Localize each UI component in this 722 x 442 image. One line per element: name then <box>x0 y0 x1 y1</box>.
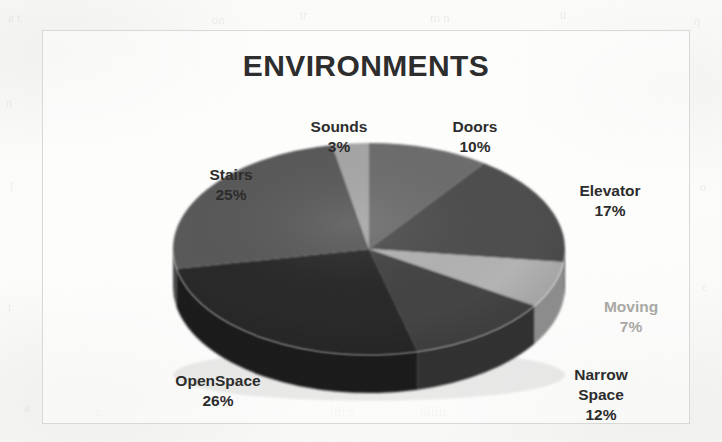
slice-label-moving: Moving 7% <box>583 297 679 337</box>
ghost-mark: q <box>694 14 700 29</box>
ghost-mark: a t <box>8 10 21 26</box>
slice-label-narrow-space-line2: Space <box>551 385 651 405</box>
ghost-mark: l <box>10 180 13 195</box>
slice-label-narrow-space: Narrow Space 12% <box>551 365 651 424</box>
ghost-mark: o <box>700 180 706 195</box>
slice-label-openspace-name: OpenSpace <box>175 372 260 389</box>
slice-label-openspace: OpenSpace 26% <box>143 371 293 411</box>
slice-label-narrow-space-line1: Narrow <box>574 366 627 383</box>
slice-label-elevator: Elevator 17% <box>555 181 665 221</box>
ghost-mark: m n <box>430 10 450 26</box>
slice-label-sounds-name: Sounds <box>311 118 368 135</box>
slice-label-elevator-name: Elevator <box>579 182 640 199</box>
slice-label-moving-name: Moving <box>604 298 658 315</box>
slice-label-doors-name: Doors <box>453 118 498 135</box>
slice-label-moving-percent: 7% <box>583 317 679 337</box>
ghost-mark: on <box>212 12 225 28</box>
slice-label-doors-percent: 10% <box>427 137 523 157</box>
slice-label-stairs-name: Stairs <box>209 166 252 183</box>
chart-title: ENVIRONMENTS <box>43 49 689 83</box>
screenshot-root: a tontrm ntiqnltoeith sollinan ENVIRONME… <box>0 0 722 442</box>
slice-label-elevator-percent: 17% <box>555 201 665 221</box>
slice-label-stairs-percent: 25% <box>183 185 279 205</box>
ghost-mark: a <box>24 400 30 416</box>
slice-label-narrow-space-percent: 12% <box>551 405 651 425</box>
ghost-mark: t <box>8 300 11 315</box>
ghost-mark: ti <box>560 8 567 23</box>
ghost-mark: e <box>702 280 707 295</box>
ghost-mark: tr <box>300 8 307 23</box>
slice-label-stairs: Stairs 25% <box>183 165 279 205</box>
slice-label-openspace-percent: 26% <box>143 391 293 411</box>
ghost-mark: n <box>6 96 12 111</box>
slice-label-sounds-percent: 3% <box>291 137 387 157</box>
slice-label-sounds: Sounds 3% <box>291 117 387 157</box>
slice-label-doors: Doors 10% <box>427 117 523 157</box>
chart-frame: ENVIRONMENTS <box>42 30 690 424</box>
